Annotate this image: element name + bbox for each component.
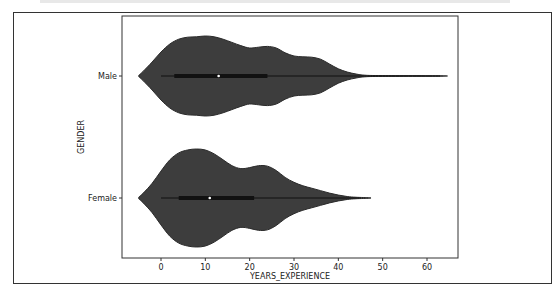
median-marker-male [217, 75, 220, 78]
x-tick-label: 50 [378, 263, 388, 272]
x-tick-label: 60 [422, 263, 432, 272]
x-tick-label: 20 [245, 263, 255, 272]
y-tick-label-female: Female [88, 194, 117, 203]
x-tick-label: 40 [333, 263, 343, 272]
median-marker-female [208, 197, 211, 200]
x-tick-label: 0 [158, 263, 163, 272]
y-tick-label-male: Male [98, 72, 117, 81]
iqr-box-male [174, 74, 267, 78]
x-tick-label: 30 [289, 263, 299, 272]
x-axis-label: YEARS_EXPERIENCE [249, 272, 330, 281]
x-tick-label: 10 [200, 263, 210, 272]
iqr-box-female [179, 196, 254, 200]
violin-chart: 0102030405060 MaleFemale YEARS_EXPERIENC… [0, 0, 559, 299]
y-axis-label: GENDER [77, 120, 86, 154]
